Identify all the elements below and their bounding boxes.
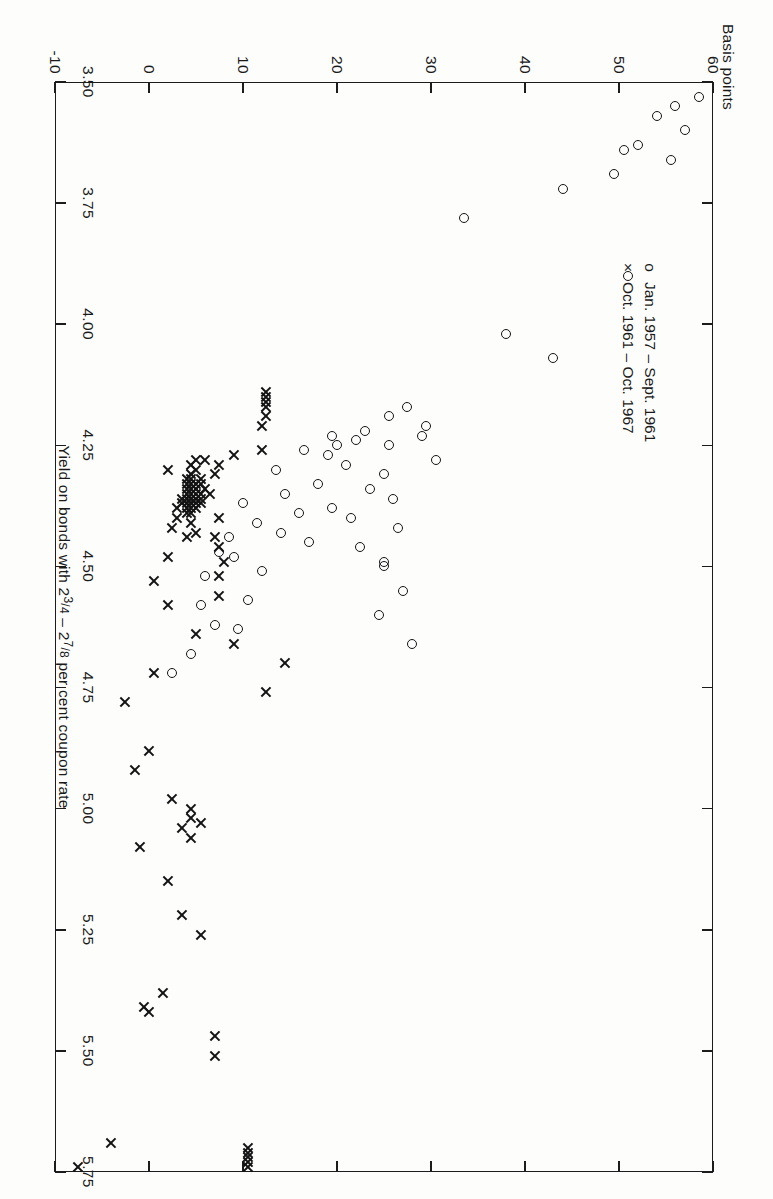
data-point-circle [356,542,366,552]
data-point-circle [346,513,356,523]
data-point-circle [384,411,394,421]
x-tick-label-5.50: 5.50 [79,1035,97,1067]
data-point-circle [652,111,662,121]
data-point-circle [623,271,633,281]
data-point-circle [280,489,290,499]
data-point-circle [421,421,431,431]
x-tick-4.5 [55,566,66,568]
data-point-cross [134,841,146,853]
data-point-circle [365,484,375,494]
data-point-circle [388,494,398,504]
data-point-circle [459,213,469,223]
data-point-cross [176,909,188,921]
y-tick-40 [524,82,526,93]
y-tick-20 [336,82,338,93]
rotated-figure-stage: Basis points Yield on bonds with 23/4 – … [0,0,773,1199]
data-point-circle [233,624,243,634]
x-tick-label-5.25: 5.25 [79,914,97,946]
data-point-cross [162,599,174,611]
y-tick-label-60: 60 [704,56,722,74]
x-tick-label-3.75: 3.75 [79,187,97,219]
data-point-circle [398,586,408,596]
data-point-circle [670,101,680,111]
data-point-circle [619,145,629,155]
data-point-circle [252,518,262,528]
data-point-cross [167,793,179,805]
data-point-circle [351,435,361,445]
data-point-cross [73,1161,85,1173]
data-point-circle [407,639,417,649]
y-tick-right-0 [148,1161,150,1172]
x-tick-5.5 [55,1050,66,1052]
y-tick-right--10 [54,1161,56,1172]
y-tick-label-10: 10 [234,56,252,74]
data-point-cross [209,1030,221,1042]
x-tick-5.75 [55,1171,66,1173]
x-tick-3.75 [55,202,66,204]
data-point-cross [167,522,179,534]
data-point-cross [209,468,221,480]
data-point-circle [313,479,323,489]
data-point-circle [393,523,403,533]
data-point-cross [162,464,174,476]
data-point-circle [327,431,337,441]
y-tick-label-40: 40 [516,56,534,74]
data-point-circle [238,498,248,508]
data-point-circle [379,469,389,479]
x-tick-top-4.5 [702,566,713,568]
data-point-cross [185,832,197,844]
data-point-circle [341,460,351,470]
data-point-circle [196,600,206,610]
y-tick-0 [148,82,150,93]
data-point-circle [323,450,333,460]
data-point-cross [157,987,169,999]
data-point-circle [327,503,337,513]
data-point-cross [214,512,226,524]
x-tick-3.5 [55,81,66,83]
y-tick-30 [430,82,432,93]
data-point-circle [633,140,643,150]
data-point-circle [379,561,389,571]
data-point-cross [162,875,174,887]
y-tick-right-30 [430,1161,432,1172]
data-point-circle [257,566,267,576]
x-tick-4.25 [55,445,66,447]
data-point-circle [294,508,304,518]
x-tick-top-3.75 [702,202,713,204]
data-point-circle [271,465,281,475]
data-point-circle [276,528,286,538]
x-tick-4 [55,323,66,325]
data-point-cross [218,556,230,568]
data-point-cross [214,590,226,602]
data-point-circle [431,455,441,465]
y-tick-label-20: 20 [328,56,346,74]
data-point-cross [214,541,226,553]
x-tick-top-5.25 [702,929,713,931]
x-tick-label-5.00: 5.00 [79,793,97,825]
data-point-cross [256,420,268,432]
y-tick-label-30: 30 [422,56,440,74]
data-point-circle [417,431,427,441]
data-point-circle [186,649,196,659]
data-point-cross [181,531,193,543]
data-point-cross [105,1137,117,1149]
x-tick-top-5 [702,808,713,810]
data-point-circle [360,426,370,436]
y-tick--10 [54,82,56,93]
x-tick-top-4 [702,323,713,325]
data-point-cross [256,444,268,456]
x-tick-label-4.25: 4.25 [79,429,97,461]
x-tick-label-4.75: 4.75 [79,672,97,704]
data-point-circle [501,329,511,339]
x-tick-label-4.00: 4.00 [79,308,97,340]
y-tick-right-40 [524,1161,526,1172]
y-tick-right-20 [336,1161,338,1172]
data-point-cross [214,570,226,582]
data-point-circle [210,620,220,630]
x-tick-5.25 [55,929,66,931]
y-tick-right-50 [618,1161,620,1172]
data-point-cross [261,686,273,698]
data-point-cross [143,1006,155,1018]
data-point-cross [279,657,291,669]
x-tick-label-3.50: 3.50 [79,66,97,98]
